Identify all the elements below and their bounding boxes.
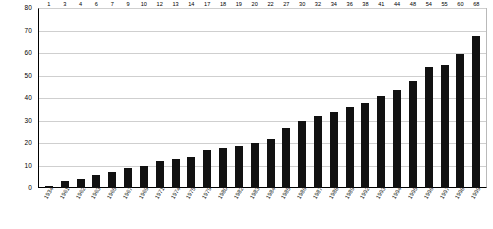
bar-value-label: 68	[473, 2, 479, 8]
x-tick-slot: 1963	[88, 190, 104, 228]
bar-slot: 44	[389, 9, 405, 188]
x-tick-slot: 1962	[73, 190, 89, 228]
bar-slot: 14	[183, 9, 199, 188]
x-tick-label-text: 1983	[249, 186, 261, 200]
x-tick-slot: 1984	[263, 190, 279, 228]
x-tick-label-text: 1988	[328, 186, 340, 200]
bar-slot: 13	[168, 9, 184, 188]
x-tick-label-text: 1969	[138, 186, 150, 200]
x-tick-label-text: 1971	[154, 186, 166, 200]
bar[interactable]: 36	[346, 107, 354, 188]
bar-chart: 01020304050607080 1346791012131417181920…	[0, 0, 493, 229]
x-tick-slot: 1967	[120, 190, 136, 228]
bar[interactable]: 30	[298, 121, 306, 188]
x-tick-slot: 1986	[294, 190, 310, 228]
x-tick-label-text: 1985	[281, 186, 293, 200]
x-tick-label-text: 1994	[392, 186, 404, 200]
bar-slot: 34	[326, 9, 342, 188]
bar[interactable]: 41	[377, 96, 385, 188]
bar-value-label: 7	[111, 2, 114, 8]
x-tick-slot: 1988	[326, 190, 342, 228]
bar-value-label: 18	[220, 2, 226, 8]
x-tick-label-text: 1975	[186, 186, 198, 200]
x-tick-slot: 1993	[373, 190, 389, 228]
bar-value-label: 32	[315, 2, 321, 8]
x-tick-slot: 1998	[453, 190, 469, 228]
x-tick-slot: 1961	[57, 190, 73, 228]
bar-slot: 19	[231, 9, 247, 188]
y-axis: 01020304050607080	[0, 8, 36, 188]
x-tick-slot: 1965	[104, 190, 120, 228]
x-tick-slot: 1982	[231, 190, 247, 228]
x-tick-label-text: 1997	[439, 186, 451, 200]
x-tick-slot: 1980	[215, 190, 231, 228]
x-tick-label-text: 1965	[107, 186, 119, 200]
bar-value-label: 44	[394, 2, 400, 8]
bar-value-label: 19	[236, 2, 242, 8]
x-tick-label-text: 1992	[360, 186, 372, 200]
x-tick-slot: 1985	[278, 190, 294, 228]
x-tick-label-text: 1979	[202, 186, 214, 200]
x-tick-slot: 1983	[247, 190, 263, 228]
x-tick-label-text: 1934	[43, 186, 55, 200]
bar-value-label: 60	[457, 2, 463, 8]
x-tick-slot: 1997	[437, 190, 453, 228]
bar-value-label: 41	[378, 2, 384, 8]
bar-value-label: 9	[126, 2, 129, 8]
y-tick-label: 10	[25, 162, 32, 169]
y-tick-label: 20	[25, 140, 32, 147]
bar-slot: 41	[373, 9, 389, 188]
bar[interactable]: 44	[393, 90, 401, 188]
bar[interactable]: 48	[409, 81, 417, 188]
x-tick-slot: 1995	[405, 190, 421, 228]
x-tick-slot: 1999	[468, 190, 484, 228]
x-tick-slot: 1987	[310, 190, 326, 228]
x-tick-label-text: 1986	[297, 186, 309, 200]
bar-slot: 48	[405, 9, 421, 188]
bar[interactable]: 20	[251, 143, 259, 188]
bar-slot: 36	[342, 9, 358, 188]
x-tick-slot: 1992	[358, 190, 374, 228]
bar-value-label: 20	[252, 2, 258, 8]
bar[interactable]: 17	[203, 150, 211, 188]
bar-slot: 18	[215, 9, 231, 188]
x-tick-slot: 1989	[342, 190, 358, 228]
x-tick-slot: 1969	[136, 190, 152, 228]
bar[interactable]: 34	[330, 112, 338, 188]
y-tick-label: 80	[25, 5, 32, 12]
bar-value-label: 1	[47, 2, 50, 8]
bar[interactable]: 38	[361, 103, 369, 188]
bar[interactable]: 18	[219, 148, 227, 188]
x-tick-label-text: 1962	[75, 186, 87, 200]
bar-slot: 30	[294, 9, 310, 188]
x-tick-label-text: 1961	[59, 186, 71, 200]
x-tick-label-text: 1993	[376, 186, 388, 200]
x-tick-slot: 1971	[152, 190, 168, 228]
bar[interactable]: 54	[425, 67, 433, 188]
bar[interactable]: 22	[267, 139, 275, 188]
x-tick-label-text: 1998	[455, 186, 467, 200]
bar[interactable]: 32	[314, 116, 322, 188]
bar-slot: 12	[152, 9, 168, 188]
bar[interactable]: 13	[172, 159, 180, 188]
bar-value-label: 48	[410, 2, 416, 8]
x-tick-label-text: 1996	[423, 186, 435, 200]
bar-slot: 38	[358, 9, 374, 188]
bar-slot: 6	[88, 9, 104, 188]
bar-slot: 27	[278, 9, 294, 188]
bar-value-label: 36	[347, 2, 353, 8]
bar[interactable]: 60	[456, 54, 464, 188]
y-tick-label: 50	[25, 72, 32, 79]
bar-slot: 17	[199, 9, 215, 188]
bar[interactable]: 68	[472, 36, 480, 188]
bar[interactable]: 55	[441, 65, 449, 188]
bar-value-label: 54	[426, 2, 432, 8]
bar-slot: 1	[41, 9, 57, 188]
bar-value-label: 4	[79, 2, 82, 8]
x-tick-slot: 1994	[389, 190, 405, 228]
bar-slot: 22	[263, 9, 279, 188]
bar[interactable]: 19	[235, 146, 243, 189]
bar-slot: 54	[421, 9, 437, 188]
bar[interactable]: 27	[282, 128, 290, 188]
bar-slot: 68	[468, 9, 484, 188]
